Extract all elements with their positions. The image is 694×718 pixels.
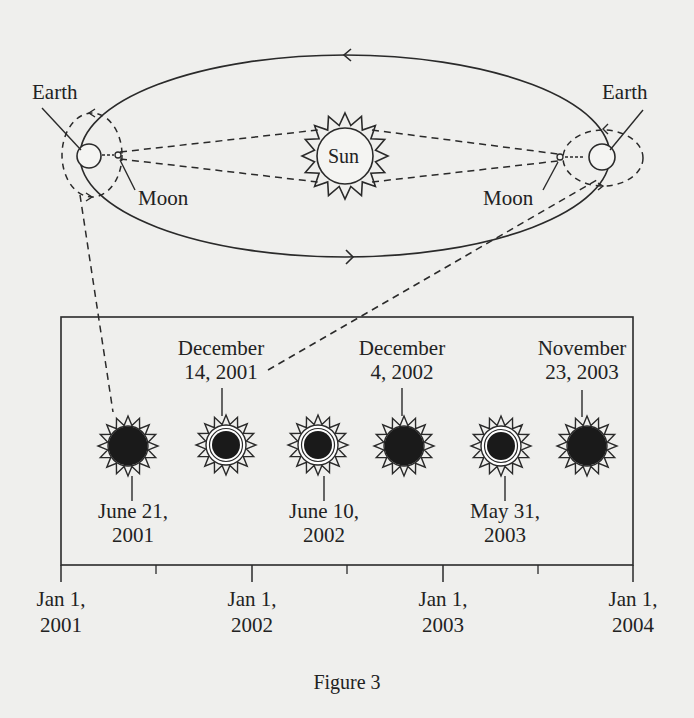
moon-label-left: Moon: [138, 186, 188, 210]
moon-orbit-arrow: [603, 124, 608, 134]
moon-icon-right: [557, 154, 563, 160]
axis-tick-label: Jan 1, 2004: [593, 586, 673, 638]
earth-icon-left: [77, 144, 101, 168]
moon-leader-left: [120, 160, 135, 190]
eclipse-icon-annular: [288, 415, 348, 475]
eclipse-date-label: June 10, 2002: [279, 499, 369, 547]
axis-tick-label: Jan 1, 2003: [403, 586, 483, 638]
axis-tick-label: Jan 1, 2002: [212, 586, 292, 638]
moon-leader-right: [543, 162, 558, 190]
left-earth-system: [42, 108, 135, 201]
eclipse-icon-total: [557, 416, 617, 476]
earth-label-right: Earth: [602, 80, 647, 104]
eclipse-date-label: December 4, 2002: [347, 336, 457, 384]
eclipse-date-label: June 21, 2001: [90, 499, 176, 547]
moon-icon-left: [115, 152, 121, 158]
axis-tick-label: Jan 1, 2001: [21, 586, 101, 638]
right-earth-system: [543, 110, 643, 190]
eclipse-icon-annular: [471, 416, 531, 476]
earth-leader-left: [42, 108, 81, 150]
eclipse-date-label: May 31, 2003: [460, 499, 550, 547]
moon-label-right: Moon: [483, 186, 533, 210]
sun-label: Sun: [328, 144, 359, 168]
eclipse-icon-total: [98, 416, 158, 476]
figure-caption: Figure 3: [300, 670, 394, 694]
eclipse-date-label: December 14, 2001: [166, 336, 276, 384]
eclipse-icon-annular: [196, 415, 256, 475]
earth-label-left: Earth: [32, 80, 77, 104]
eclipse-date-label: November 23, 2003: [517, 336, 647, 384]
eclipse-icon-total: [374, 416, 434, 476]
